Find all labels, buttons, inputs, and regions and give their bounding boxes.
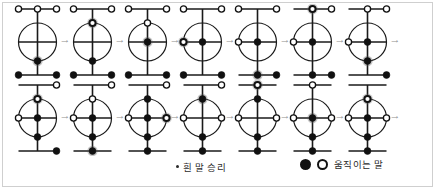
- black-piece-bottom-right: [53, 72, 60, 79]
- black-piece-center: [254, 39, 261, 46]
- board-graphic: [340, 80, 395, 156]
- white-piece-top-right: [218, 82, 224, 88]
- black-piece-bottom-center: [199, 148, 206, 155]
- arrow-right-icon: →: [388, 32, 402, 46]
- board-step-2: [65, 4, 120, 80]
- white-piece-top-left: [70, 6, 76, 12]
- black-piece-center: [34, 115, 41, 122]
- white-piece-circle-top: [89, 20, 95, 26]
- black-piece-bottom-right: [163, 72, 170, 79]
- white-piece-top-right: [53, 6, 59, 12]
- black-piece-circle-bottom: [34, 58, 41, 65]
- white-piece-circle-left: [180, 39, 186, 45]
- white-piece-icon: [317, 159, 328, 170]
- black-piece-circle-bottom: [144, 134, 151, 141]
- white-piece-circle-left: [290, 39, 296, 45]
- white-piece-circle-left: [15, 115, 21, 121]
- black-piece-bottom-center: [364, 148, 371, 155]
- board-step-10: [120, 80, 175, 156]
- white-piece-top-right: [108, 82, 114, 88]
- black-piece-circle-bottom: [199, 134, 206, 141]
- white-piece-top-center: [364, 6, 370, 12]
- white-piece-top-right: [218, 6, 224, 12]
- black-piece-bottom-right: [383, 72, 390, 79]
- board-step-6: [285, 4, 340, 80]
- board-row-top: →→→→→→→: [10, 4, 425, 80]
- board-step-5: [230, 4, 285, 80]
- white-piece-top-left: [180, 6, 186, 12]
- legend-win-label: 흰 말 승리: [183, 160, 226, 174]
- black-piece-bottom-right: [53, 148, 60, 155]
- board-step-3: [120, 4, 175, 80]
- white-piece-top-center: [309, 82, 315, 88]
- black-piece-center: [144, 115, 151, 122]
- black-piece-center: [364, 39, 371, 46]
- board-step-11: [175, 80, 230, 156]
- board-graphic: [65, 80, 120, 156]
- white-piece-circle-left: [125, 115, 131, 121]
- black-piece-bottom-left: [125, 72, 132, 79]
- black-piece-bottom-right: [108, 72, 115, 79]
- black-piece-bottom-left: [15, 72, 22, 79]
- black-piece-circle-bottom: [364, 134, 371, 141]
- black-piece-bottom-right: [273, 72, 280, 79]
- white-piece-top-right: [383, 6, 389, 12]
- black-piece-bottom-center: [309, 72, 316, 79]
- board-step-4: [175, 4, 230, 80]
- black-piece-circle-top: [144, 96, 151, 103]
- white-piece-circle-left: [345, 39, 351, 45]
- white-piece-top-left: [235, 6, 241, 12]
- white-piece-top-left: [125, 6, 131, 12]
- board-graphic: [10, 4, 65, 80]
- black-piece-bottom-right: [328, 72, 335, 79]
- black-piece-circle-top: [254, 96, 261, 103]
- black-piece-center: [89, 115, 96, 122]
- black-piece-center: [364, 115, 371, 122]
- black-piece-circle-bottom: [89, 134, 96, 141]
- board-step-12: [230, 80, 285, 156]
- white-piece-circle-top: [34, 96, 40, 102]
- black-piece-center: [144, 39, 151, 46]
- black-piece-bottom-center: [254, 148, 261, 155]
- board-graphic: [175, 80, 230, 156]
- white-piece-top-right: [108, 6, 114, 12]
- black-piece-bottom-center: [89, 148, 96, 155]
- black-piece-icon: [300, 159, 311, 170]
- white-piece-top-right: [328, 6, 334, 12]
- board-graphic: [230, 4, 285, 80]
- black-piece-bottom-left: [70, 72, 77, 79]
- black-piece-circle-bottom: [254, 134, 261, 141]
- black-piece-circle-bottom: [89, 58, 96, 65]
- black-piece-circle-bottom: [309, 134, 316, 141]
- board-graphic: [65, 4, 120, 80]
- board-step-8: [10, 80, 65, 156]
- white-piece-circle-left: [290, 115, 296, 121]
- board-graphic: [285, 4, 340, 80]
- board-step-1: [10, 4, 65, 80]
- game-sequence-figure: →→→→→→→ →→→→→→→ 흰 말 승리 움직이는 말: [0, 0, 435, 189]
- board-graphic: [340, 4, 395, 80]
- white-piece-circle-top: [144, 20, 150, 26]
- legend-win: 흰 말 승리: [176, 160, 226, 174]
- white-piece-circle-left: [345, 115, 351, 121]
- white-piece-top-right: [163, 82, 169, 88]
- white-piece-circle-left: [235, 39, 241, 45]
- black-piece-center: [199, 39, 206, 46]
- board-step-9: [65, 80, 120, 156]
- black-piece-bottom-right: [218, 72, 225, 79]
- board-step-7: [340, 4, 395, 80]
- board-graphic: [175, 4, 230, 80]
- white-piece-top-right: [273, 6, 279, 12]
- black-piece-bottom-center: [309, 148, 316, 155]
- white-piece-top-center: [254, 82, 260, 88]
- white-piece-circle-top: [364, 96, 370, 102]
- black-piece-bottom-left: [180, 72, 187, 79]
- white-piece-circle-left: [70, 115, 76, 121]
- legend-moving-label: 움직이는 말: [334, 157, 383, 171]
- black-piece-center: [309, 39, 316, 46]
- legend: 흰 말 승리 움직이는 말: [0, 155, 435, 185]
- board-graphic: [120, 4, 175, 80]
- black-piece-center: [309, 115, 316, 122]
- black-piece-circle-bottom: [34, 134, 41, 141]
- bullet-icon: [176, 165, 179, 168]
